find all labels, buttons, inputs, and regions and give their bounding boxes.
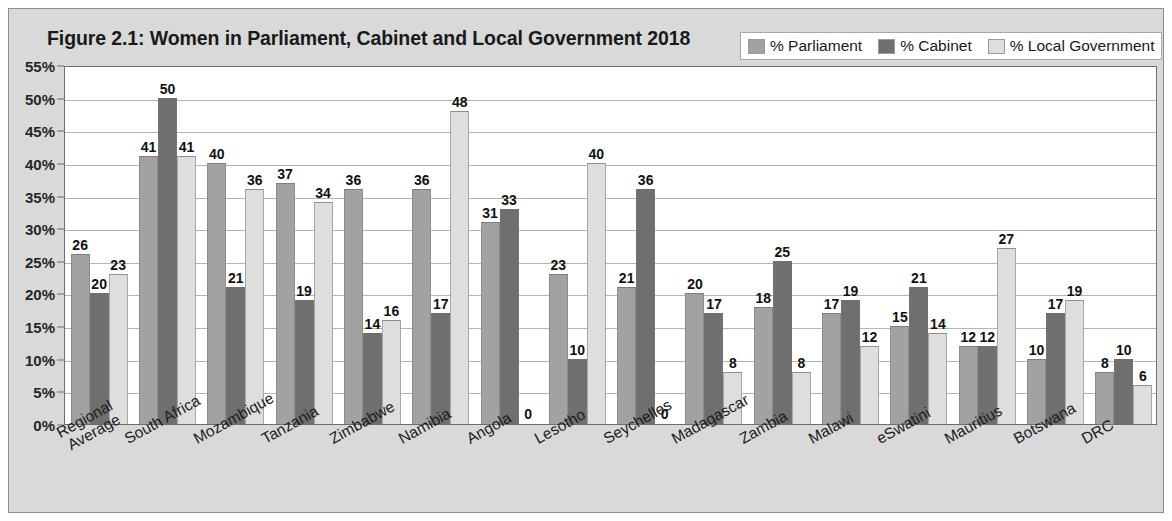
bar[interactable]: 48 [450,111,469,424]
bar-value-label: 14 [365,316,381,332]
legend-swatch-icon [988,39,1005,54]
bar-group: 121227 [959,67,1016,424]
bar-value-label: 17 [1048,296,1064,312]
x-axis-labels: RegionalAverageSouth AfricaMozambiqueTan… [64,427,1157,521]
bar-value-label: 50 [160,81,176,97]
bar-value-label: 18 [755,290,771,306]
y-axis-tick-label: 55% [25,58,55,75]
y-axis-tick-label: 45% [25,123,55,140]
plot-area: 2620234150414021363719343614163617483133… [64,66,1157,425]
bar-group: 21360 [617,67,674,424]
bar[interactable]: 36 [344,189,363,424]
bar-group: 402136 [207,67,264,424]
bar[interactable]: 40 [587,163,606,424]
bar[interactable]: 41 [139,156,158,424]
bar-value-label: 36 [414,172,430,188]
bar-group: 171912 [822,67,879,424]
bar-value-label: 10 [570,342,586,358]
bar-value-label: 40 [589,146,605,162]
y-axis-tick-label: 15% [25,319,55,336]
bar-value-label: 17 [433,296,449,312]
bar-group: 371934 [276,67,333,424]
y-axis-tick-label: 40% [25,155,55,172]
bar[interactable]: 17 [822,313,841,424]
bar[interactable]: 21 [617,287,636,424]
legend-item-2[interactable]: % Local Government [988,37,1155,55]
bar-value-label: 15 [892,309,908,325]
bar-value-label: 31 [482,205,498,221]
bar-value-label: 10 [1029,342,1045,358]
bar-value-label: 26 [72,237,88,253]
bar[interactable]: 50 [158,98,177,424]
bar-value-label: 19 [296,283,312,299]
legend-item-0[interactable]: % Parliament [748,37,862,55]
bar[interactable]: 36 [636,189,655,424]
bar[interactable]: 27 [997,248,1016,424]
bar[interactable]: 33 [500,209,519,424]
bar-value-label: 27 [998,231,1014,247]
y-axis-tick-label: 5% [33,384,55,401]
bar-group: 231040 [549,67,606,424]
bar[interactable]: 10 [1114,359,1133,424]
y-axis-tick-mark [57,196,64,197]
bar-value-label: 6 [1139,368,1147,384]
y-axis-tick-mark [57,66,64,67]
bar[interactable]: 21 [909,287,928,424]
bar-value-label: 48 [452,94,468,110]
y-axis-tick-label: 35% [25,188,55,205]
bar[interactable]: 36 [412,189,431,424]
bar[interactable]: 26 [71,254,90,424]
bar[interactable]: 36 [245,189,264,424]
bar[interactable]: 15 [890,326,909,424]
bar[interactable]: 37 [276,183,295,425]
legend-item-1[interactable]: % Cabinet [878,37,972,55]
bar-group: 20178 [685,67,742,424]
legend-swatch-icon [878,39,895,54]
bar-value-label: 12 [979,329,995,345]
bar-groups: 2620234150414021363719343614163617483133… [65,67,1156,424]
bar-group: 262023 [71,67,128,424]
bar[interactable]: 23 [109,274,128,424]
legend-item-label: % Cabinet [900,37,972,55]
bar-value-label: 41 [141,139,157,155]
bar-group: 152114 [890,67,947,424]
bar[interactable]: 6 [1133,385,1152,424]
y-axis-tick-label: 0% [33,417,55,434]
bar-value-label: 34 [315,185,331,201]
bar-value-label: 19 [1067,283,1083,299]
bar[interactable]: 25 [773,261,792,424]
bar[interactable]: 23 [549,274,568,424]
bar-group: 18258 [754,67,811,424]
y-axis-tick-mark [57,359,64,360]
bar[interactable]: 34 [314,202,333,424]
bar[interactable]: 40 [207,163,226,424]
y-axis-tick-label: 20% [25,286,55,303]
y-axis-tick-mark [57,229,64,230]
y-axis-tick-label: 10% [25,351,55,368]
y-axis-tick-mark [57,392,64,393]
bar[interactable]: 19 [841,300,860,424]
y-axis-tick-label: 25% [25,253,55,270]
y-axis-tick-mark [57,327,64,328]
bar[interactable]: 12 [860,346,879,424]
bar[interactable]: 31 [481,222,500,424]
bar-value-label: 12 [862,329,878,345]
y-axis-tick-mark [57,98,64,99]
bar-value-label: 23 [110,257,126,273]
y-axis-tick-mark [57,131,64,132]
bar-value-label: 21 [911,270,927,286]
bar[interactable]: 41 [177,156,196,424]
bar-value-label: 36 [638,172,654,188]
bar[interactable]: 20 [685,293,704,424]
y-axis-tick-label: 50% [25,90,55,107]
bar-value-label: 17 [824,296,840,312]
bar[interactable]: 8 [792,372,811,424]
bar-value-label: 20 [91,276,107,292]
bar[interactable]: 18 [754,307,773,424]
bar-value-label: 23 [551,257,567,273]
page-title: Figure 2.1: Women in Parliament, Cabinet… [47,27,690,50]
bar-value-label: 37 [277,166,293,182]
bar-value-label: 40 [209,146,225,162]
bar[interactable]: 14 [928,333,947,424]
bar-value-label: 33 [501,192,517,208]
